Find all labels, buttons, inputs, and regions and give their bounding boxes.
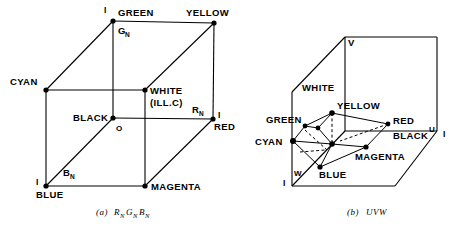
vertex-dot-green [110, 18, 115, 23]
edge-hidden-dashed-1-b [305, 130, 327, 150]
vertex-dot-magenta [142, 183, 147, 188]
edge-yellow-green-b [305, 113, 332, 126]
vertex-dot-white [142, 87, 147, 92]
label-black-b: BLACK [393, 130, 428, 141]
edge-cyan-green [46, 21, 113, 90]
edge-cyan-center-b [293, 141, 332, 144]
caption-a-b-sub: N [144, 212, 150, 219]
vertex-dot-green-b [303, 124, 308, 129]
cube-a-vertices [43, 18, 216, 188]
caption-b-index: (b) [347, 207, 359, 217]
caption-b-text: UVW [366, 207, 388, 217]
caption-a-r-sub: N [119, 212, 125, 219]
figure-container: I GREEN YELLOW G N CYAN WHITE (ILL.C) BL… [0, 0, 471, 228]
label-gn-subscript: N [125, 31, 130, 38]
edge-yellow-red [213, 23, 214, 119]
label-white-b: WHITE [302, 82, 335, 93]
vertex-dot-magenta-b [363, 144, 368, 149]
label-white-illuminant: (ILL.C) [150, 97, 183, 108]
vertex-dot-cyan-b [290, 138, 296, 144]
caption-a: (a) R N G N B N [96, 207, 150, 219]
uvw-labels: V WHITE YELLOW GREEN RED BLACK U I CYAN … [255, 37, 445, 188]
edge-black-red [113, 118, 213, 119]
caption-a-g-sub: N [132, 212, 138, 219]
edge-cyan-blue-b [293, 141, 320, 167]
vertex-dot-yellow [211, 20, 216, 25]
edge-center-magenta-b [332, 144, 366, 147]
label-black: BLACK [73, 112, 108, 123]
vertex-dot-blue [43, 183, 48, 188]
vertex-dot-black [110, 115, 115, 120]
label-red: RED [214, 121, 235, 132]
edge-yellow-red-b [332, 113, 388, 124]
label-yellow-b: YELLOW [337, 100, 380, 111]
label-yellow: YELLOW [186, 7, 229, 18]
uvw-axis-box [292, 37, 437, 186]
label-green: GREEN [118, 7, 154, 18]
edge-red-center-dashed-b [340, 124, 388, 141]
edge-yellow-inner1-b [318, 113, 332, 128]
color-cube-figure: I GREEN YELLOW G N CYAN WHITE (ILL.C) BL… [0, 0, 471, 228]
label-unit-w: I [283, 178, 285, 188]
label-origin: O [116, 124, 123, 133]
label-axis-u: U [429, 125, 435, 134]
label-cyan: CYAN [10, 76, 38, 87]
vertex-dot-yellow-b [329, 110, 335, 116]
label-red-b: RED [393, 115, 414, 126]
vertex-dot-inner-b [316, 126, 321, 131]
edge-blue-black [46, 118, 113, 186]
label-unit-red: I [218, 110, 220, 120]
edge-white-yellow [145, 23, 214, 90]
caption-a-r: R [113, 207, 120, 217]
edge-inner-center-b [318, 128, 332, 144]
vertex-dot-red-b [386, 122, 391, 127]
label-unit-blue: I [36, 177, 38, 187]
edge-magenta-red [145, 119, 213, 186]
vertex-dot-black-b [329, 141, 335, 147]
label-bn-subscript: N [70, 173, 75, 180]
label-rn-subscript: N [199, 110, 204, 117]
label-blue-b: BLUE [319, 169, 346, 180]
label-magenta-b: MAGENTA [355, 151, 405, 162]
caption-a-g: G [126, 207, 133, 217]
caption-a-index: (a) [96, 207, 108, 217]
label-unit-green: I [104, 5, 106, 15]
label-green-b: GREEN [266, 114, 302, 125]
label-magenta: MAGENTA [151, 181, 201, 192]
edge-green-yellow [113, 21, 214, 23]
label-blue: BLUE [36, 189, 63, 200]
label-unit-u: I [443, 129, 445, 139]
vertex-dot-cyan [43, 87, 48, 92]
label-white: WHITE [150, 85, 183, 96]
label-axis-v: V [348, 37, 355, 48]
cube-a-edges [46, 21, 214, 186]
label-cyan-b: CYAN [255, 136, 283, 147]
label-axis-w: W [294, 169, 302, 178]
caption-b: (b) UVW [347, 207, 388, 217]
cube-a-labels: I GREEN YELLOW G N CYAN WHITE (ILL.C) BL… [10, 5, 235, 200]
